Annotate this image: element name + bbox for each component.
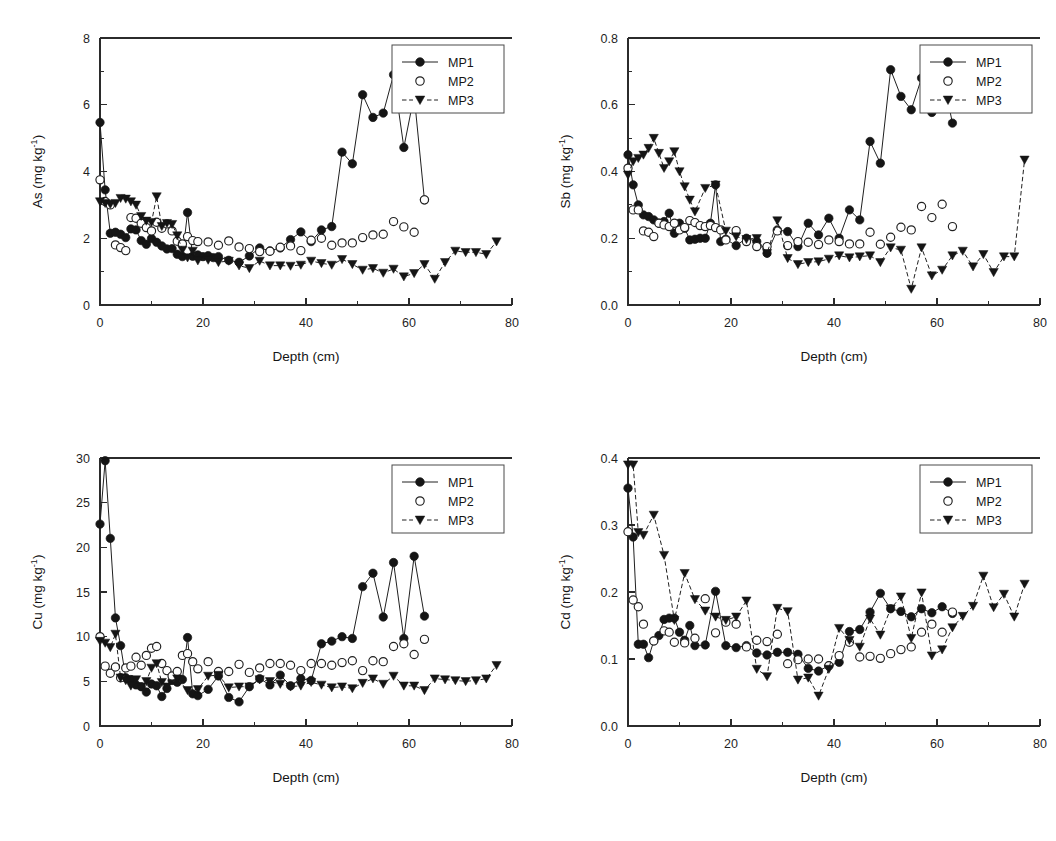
cu-panel-marker-mp2 (137, 661, 145, 669)
cd-panel-marker-mp3 (793, 676, 802, 684)
cd-panel-xaxis-title: Depth (cm) (801, 770, 868, 785)
sb-panel-yticklabel-3: 0.6 (601, 98, 618, 112)
sb-panel-marker-mp2 (634, 206, 642, 214)
as-panel-marker-mp3 (131, 201, 140, 209)
cu-panel-marker-mp2 (400, 640, 408, 648)
sb-panel-legend: MP1MP2MP3 (920, 45, 1032, 113)
cd-panel-marker-mp1 (814, 667, 822, 675)
sb-panel-marker-mp1 (907, 106, 915, 114)
cd-panel-marker-mp2 (670, 638, 678, 646)
cu-panel-marker-mp1 (101, 456, 109, 464)
cu-panel-marker-mp1 (116, 641, 124, 649)
cd-panel-marker-mp1 (732, 643, 740, 651)
cd-panel-legend-label-mp1: MP1 (976, 476, 1002, 490)
as-panel-marker-mp2 (235, 243, 243, 251)
as-panel-yaxis-title: As (mg kg-1) (29, 135, 45, 208)
as-panel-xticklabel-2: 40 (299, 316, 313, 330)
cu-panel-marker-mp2 (101, 662, 109, 670)
cd-panel-xticklabel-3: 60 (930, 737, 944, 751)
sb-panel-marker-mp1 (629, 181, 637, 189)
sb-panel-marker-mp1 (876, 159, 884, 167)
sb-panel-xticklabel-4: 80 (1033, 316, 1047, 330)
cu-panel-marker-mp1 (328, 637, 336, 645)
cd-panel-marker-mp2 (948, 608, 956, 616)
cu-panel-marker-mp2 (235, 660, 243, 668)
panel-cd: 0.00.10.20.30.4020406080Depth (cm)Cd (mg… (528, 420, 1056, 841)
as-panel-marker-mp3 (152, 193, 161, 201)
cd-panel-marker-mp2 (876, 654, 884, 662)
cd-panel-marker-mp2 (856, 653, 864, 661)
cd-panel-marker-mp3 (865, 615, 874, 623)
as-panel-marker-mp2 (389, 217, 397, 225)
cu-panel-marker-mp1 (410, 552, 418, 560)
cd-panel-marker-mp3 (907, 634, 916, 642)
sb-panel-marker-mp2 (814, 240, 822, 248)
as-panel-marker-mp2 (307, 236, 315, 244)
panel-sb: 0.00.20.40.60.8020406080Depth (cm)Sb (mg… (528, 0, 1056, 420)
cd-panel-xticklabel-0: 0 (625, 737, 632, 751)
sb-panel-marker-mp2 (650, 232, 658, 240)
sb-panel-marker-mp2 (835, 237, 843, 245)
sb-panel-marker-mp3 (675, 168, 684, 176)
cu-panel-series-mp2 (96, 633, 429, 682)
cd-panel-xticklabel-4: 80 (1033, 737, 1047, 751)
cu-panel-marker-mp3 (451, 677, 460, 685)
cu-panel-marker-mp2 (420, 635, 428, 643)
cu-panel-marker-mp1 (369, 569, 377, 577)
cd-panel-marker-mp3 (999, 590, 1008, 598)
cd-panel-marker-mp1 (711, 587, 719, 595)
cu-panel-marker-mp1 (338, 632, 346, 640)
sb-panel-marker-mp2 (753, 242, 761, 250)
sb-panel-legend-marker-mp2 (944, 77, 952, 85)
as-panel-canvas: 02468020406080Depth (cm)As (mg kg-1)MP1M… (0, 0, 528, 420)
cd-panel-marker-mp3 (659, 551, 668, 559)
cd-panel-marker-mp3 (639, 531, 648, 539)
sb-panel-marker-mp2 (845, 240, 853, 248)
cd-panel-marker-mp1 (701, 641, 709, 649)
as-panel-marker-mp3 (307, 257, 316, 265)
as-panel-marker-mp2 (369, 231, 377, 239)
as-panel-marker-mp3 (327, 261, 336, 269)
sb-panel-marker-mp1 (897, 92, 905, 100)
cd-panel-legend-marker-mp2 (944, 497, 952, 505)
sb-panel-marker-mp1 (856, 216, 864, 224)
cu-panel-marker-mp1 (204, 685, 212, 693)
cu-panel-marker-mp3 (430, 675, 439, 683)
as-panel-marker-mp1 (400, 143, 408, 151)
cd-panel-yticklabel-0: 0.0 (601, 720, 618, 734)
cu-panel-legend-label-mp2: MP2 (448, 495, 474, 509)
cd-panel-legend-label-mp2: MP2 (976, 495, 1002, 509)
cu-panel-marker-mp1 (379, 613, 387, 621)
cd-panel-marker-mp3 (824, 665, 833, 673)
cu-panel-marker-mp3 (106, 644, 115, 652)
as-panel-marker-mp2 (266, 247, 274, 255)
as-panel-marker-mp2 (328, 241, 336, 249)
sb-panel-marker-mp1 (948, 119, 956, 127)
as-panel-xticklabel-1: 20 (196, 316, 210, 330)
cd-panel-marker-mp2 (773, 630, 781, 638)
as-panel-marker-mp3 (430, 275, 439, 283)
cu-panel-marker-mp2 (297, 667, 305, 675)
cd-panel-marker-mp1 (722, 641, 730, 649)
as-panel-marker-mp3 (440, 259, 449, 267)
cu-panel-marker-mp2 (153, 642, 161, 650)
sb-panel-yticklabel-4: 0.8 (601, 32, 618, 46)
cu-panel-marker-mp2 (307, 659, 315, 667)
sb-panel-marker-mp3 (732, 233, 741, 241)
cd-panel-marker-mp3 (876, 631, 885, 639)
cu-panel-xticklabel-1: 20 (196, 737, 210, 751)
cd-panel-marker-mp2 (650, 637, 658, 645)
cd-panel-yticklabel-3: 0.3 (601, 519, 618, 533)
sb-panel-marker-mp3 (907, 285, 916, 293)
as-panel-marker-mp1 (122, 233, 130, 241)
cd-panel-marker-mp2 (917, 628, 925, 636)
as-panel-marker-mp3 (482, 251, 491, 259)
cd-panel-xticklabel-1: 20 (724, 737, 738, 751)
cu-panel-yaxis-title-base: Cu (mg kg (30, 567, 45, 629)
cu-panel-marker-mp2 (266, 659, 274, 667)
as-panel-yticklabel-2: 4 (83, 165, 90, 179)
sb-panel-marker-mp2 (897, 223, 905, 231)
cd-panel-legend: MP1MP2MP3 (920, 465, 1032, 533)
cd-panel-yaxis-title-superscript: -1 (557, 559, 567, 567)
sb-panel-marker-mp3 (773, 217, 782, 225)
